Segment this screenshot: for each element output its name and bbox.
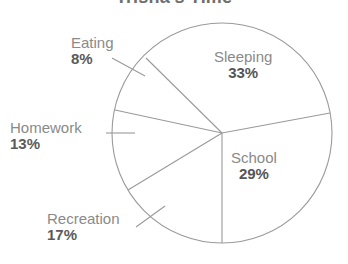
pie-slice-label-eating: Eating 8% <box>71 35 114 67</box>
pie-slice-name-eating: Eating <box>71 34 114 51</box>
pie-slice-label-homework: Homework 13% <box>10 120 82 152</box>
pie-slice-name-school: School <box>231 149 277 166</box>
pie-slice-value-school: 29% <box>231 166 277 182</box>
pie-slice-value-sleeping: 33% <box>214 65 272 81</box>
pie-slice-label-recreation: Recreation 17% <box>47 211 120 243</box>
pie-slice-name-homework: Homework <box>10 119 82 136</box>
pie-slice-value-homework: 13% <box>10 136 82 152</box>
pie-slice-name-recreation: Recreation <box>47 210 120 227</box>
pie-slice-label-sleeping: Sleeping 33% <box>214 49 272 81</box>
pie-slice-label-school: School 29% <box>231 150 277 182</box>
pie-slice-value-recreation: 17% <box>47 227 120 243</box>
pie-slice-name-sleeping: Sleeping <box>214 48 272 65</box>
pie-chart-screenshot: Trisha's Time Sleeping 33% School 29% Re… <box>0 0 348 264</box>
pie-slice-value-eating: 8% <box>71 51 114 67</box>
